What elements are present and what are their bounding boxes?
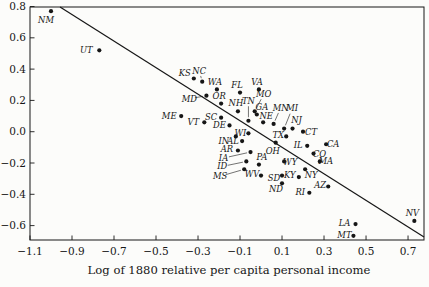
x-tick-label: −0.3 <box>185 245 211 257</box>
point-label-FL: FL <box>230 80 243 90</box>
point-KY <box>297 175 301 179</box>
y-tick-label: 0.8 <box>9 0 26 12</box>
point-FL <box>238 90 242 94</box>
point-label-UT: UT <box>80 45 94 55</box>
point-label-VA: VA <box>251 77 263 87</box>
point-MD <box>204 94 208 98</box>
x-axis-title: Log of 1880 relative per capita personal… <box>88 263 371 277</box>
point-ID <box>244 159 248 163</box>
leader-line-MI <box>285 114 290 126</box>
point-label-SD: SD <box>268 173 281 183</box>
point-label-NV: NV <box>405 208 420 218</box>
point-label-ME: ME <box>161 111 177 121</box>
point-ME <box>179 114 183 118</box>
point-label-DE: DE <box>212 120 226 130</box>
point-label-OR: OR <box>213 91 226 101</box>
leader-line-MS <box>226 170 241 174</box>
leader-line-NC <box>201 76 202 78</box>
y-tick-label: 0.4 <box>9 63 26 75</box>
point-NC <box>200 80 204 84</box>
point-LA <box>353 222 357 226</box>
point-KS <box>192 76 196 80</box>
y-tick-label: 0.6 <box>9 31 26 43</box>
point-label-TN: TN <box>242 96 256 106</box>
point-label-MO: MO <box>255 89 272 99</box>
point-IL <box>305 144 309 148</box>
point-label-MT: MT <box>336 230 353 240</box>
x-tick-label: −0.1 <box>227 245 253 257</box>
scatter-chart: −1.1−0.9−0.7−0.5−0.3−0.10.10.30.50.70.80… <box>0 0 429 287</box>
point-label-NM: NM <box>37 15 54 25</box>
point-SC <box>219 116 223 120</box>
y-tick-label: −0.6 <box>1 219 27 231</box>
point-NH <box>236 109 240 113</box>
point-TX <box>284 134 288 138</box>
leader-line-MN <box>275 113 278 121</box>
point-label-CT: CT <box>305 127 318 137</box>
point-DE <box>227 123 231 127</box>
y-tick-label: 0.2 <box>9 94 26 106</box>
point-label-MA: MA <box>318 156 334 166</box>
point-label-AZ: AZ <box>313 180 326 190</box>
x-tick-label: 0.5 <box>358 245 375 257</box>
point-label-PA: PA <box>255 152 267 162</box>
point-label-MD: MD <box>181 94 198 104</box>
point-label-WA: WA <box>208 77 222 87</box>
x-tick-label: −1.1 <box>17 245 43 257</box>
point-label-CA: CA <box>327 139 339 149</box>
point-NM <box>49 9 53 13</box>
point-label-MS: MS <box>212 171 228 181</box>
point-label-NY: NY <box>304 170 319 180</box>
point-MT <box>351 234 355 238</box>
point-label-VT: VT <box>187 117 200 127</box>
point-label-MI: MI <box>285 103 299 113</box>
point-WI <box>246 131 250 135</box>
point-label-OH: OH <box>266 146 281 156</box>
point-OH <box>274 141 278 145</box>
point-RI <box>307 191 311 195</box>
trend-line <box>60 7 424 237</box>
point-AZ <box>326 184 330 188</box>
x-tick-label: 0.1 <box>274 245 291 257</box>
x-tick-label: 0.7 <box>400 245 417 257</box>
point-TN <box>246 119 250 123</box>
point-label-TX: TX <box>272 130 285 140</box>
x-tick-label: 0.3 <box>316 245 333 257</box>
leader-line-ID <box>228 162 243 165</box>
point-label-WV: WV <box>245 169 261 179</box>
point-WV <box>259 173 263 177</box>
x-tick-label: −0.7 <box>101 245 127 257</box>
point-NV <box>412 219 416 223</box>
point-label-KY: KY <box>283 170 297 180</box>
point-OR <box>219 101 223 105</box>
plot-box <box>30 7 424 240</box>
point-label-IL: IL <box>293 140 303 150</box>
x-tick-label: −0.9 <box>59 245 85 257</box>
point-label-KS: KS <box>178 68 191 78</box>
point-label-WY: WY <box>283 157 299 167</box>
y-tick-label: −0.4 <box>1 188 27 200</box>
y-tick-label: 0.0 <box>9 125 26 137</box>
point-label-NJ: NJ <box>290 115 302 125</box>
point-IA <box>248 150 252 154</box>
point-UT <box>97 48 101 52</box>
x-tick-label: −0.5 <box>143 245 169 257</box>
point-GA <box>255 112 259 116</box>
point-label-NE: NE <box>258 111 272 121</box>
point-label-ID: ID <box>216 161 227 171</box>
point-label-LA: LA <box>338 218 351 228</box>
y-tick-label: −0.2 <box>1 157 27 169</box>
point-NJ <box>290 126 294 130</box>
point-AR <box>236 148 240 152</box>
point-PA <box>257 162 261 166</box>
point-VT <box>202 120 206 124</box>
point-MN <box>272 122 276 126</box>
point-AL <box>240 139 244 143</box>
point-label-RI: RI <box>295 187 306 197</box>
point-label-NC: NC <box>191 66 206 76</box>
point-label-ND: ND <box>268 184 283 194</box>
scatter-figure: −1.1−0.9−0.7−0.5−0.3−0.10.10.30.50.70.80… <box>0 0 429 287</box>
